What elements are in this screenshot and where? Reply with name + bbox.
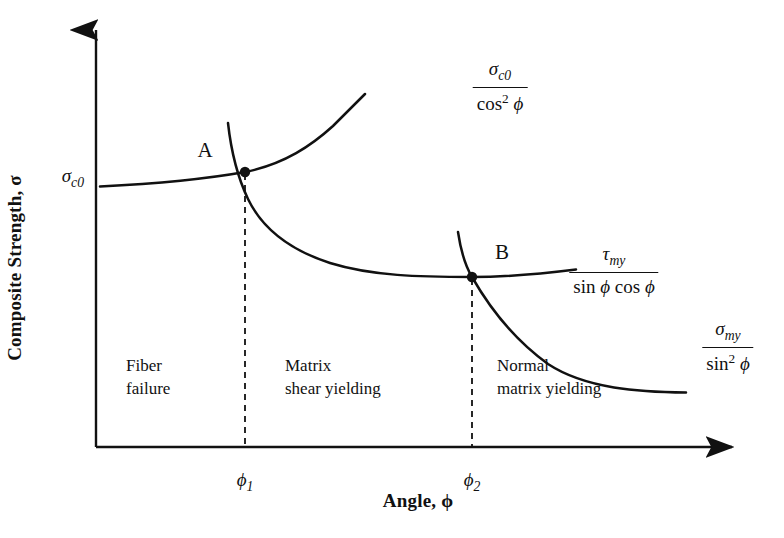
formula3-den-exp: 2 — [728, 351, 735, 366]
point-label-b: B — [495, 242, 509, 263]
formula2-numerator: τmy — [569, 243, 658, 271]
region3-line1: Normal — [497, 355, 601, 378]
formula3-denominator: sin2 ϕ — [702, 349, 753, 375]
formula-matrix-shear-yielding: τmy sin ϕ cos ϕ — [569, 243, 658, 298]
formula2-denominator: sin ϕ cos ϕ — [569, 274, 658, 298]
region-label-matrix-shear-yielding: Matrix shear yielding — [285, 355, 381, 401]
formula2-fraction-bar — [569, 272, 658, 273]
point-label-a: A — [197, 140, 212, 161]
formula1-fraction-bar — [473, 87, 528, 88]
formula2-den-var2: ϕ — [645, 276, 655, 297]
formula1-den-exp: 2 — [502, 91, 509, 106]
plot-canvas — [0, 0, 784, 538]
x-axis-title: Angle, ϕ — [383, 491, 453, 510]
formula2-den-fn2: cos — [615, 276, 640, 297]
formula1-den-var: ϕ — [513, 93, 523, 114]
y-tick-label-sigma-c0: σc0 — [62, 166, 84, 189]
curve-matrix-shear-yielding — [228, 123, 576, 277]
formula1-den-fn: cos — [477, 93, 502, 114]
region3-line2: matrix yielding — [497, 378, 601, 401]
region2-line1: Matrix — [285, 355, 381, 378]
formula3-num-sub: my — [725, 328, 741, 343]
formula1-num-sub: c0 — [498, 68, 511, 83]
x-tick-label-phi1: ϕ1 — [237, 470, 254, 493]
x-tick2-sub: 2 — [474, 479, 481, 494]
x-tick-label-phi2: ϕ2 — [464, 470, 481, 493]
marker-point-b — [467, 272, 477, 282]
x-tick1-sub: 1 — [247, 479, 254, 494]
y-tick-base: σ — [62, 165, 71, 186]
formula-normal-matrix-yielding: σmy sin2 ϕ — [702, 318, 753, 375]
region-label-fiber-failure: Fiber failure — [126, 355, 170, 401]
composite-strength-figure: Composite Strength, σ Angle, ϕ σc0 ϕ1 ϕ2… — [0, 0, 784, 538]
y-axis-title: Composite Strength, σ — [5, 175, 24, 361]
formula-fiber-failure: σc0 cos2 ϕ — [473, 58, 528, 115]
x-tick2-base: ϕ — [464, 469, 474, 490]
region2-line2: shear yielding — [285, 378, 381, 401]
marker-point-a — [240, 167, 250, 177]
formula2-den-var1: ϕ — [600, 276, 610, 297]
formula3-fraction-bar — [702, 347, 753, 348]
formula1-numerator: σc0 — [473, 58, 528, 86]
curve-fiber-failure — [100, 94, 365, 187]
formula3-numerator: σmy — [702, 318, 753, 346]
formula2-den-fn1: sin — [573, 276, 595, 297]
formula1-num-base: σ — [489, 58, 498, 79]
region-label-normal-matrix-yielding: Normal matrix yielding — [497, 355, 601, 401]
formula3-den-fn: sin — [706, 353, 728, 374]
formula2-num-sub: my — [609, 253, 625, 268]
region1-line2: failure — [126, 378, 170, 401]
formula3-den-var: ϕ — [740, 353, 750, 374]
formula1-denominator: cos2 ϕ — [473, 89, 528, 115]
y-tick-sub: c0 — [71, 175, 84, 190]
x-tick1-base: ϕ — [237, 469, 247, 490]
region1-line1: Fiber — [126, 355, 170, 378]
